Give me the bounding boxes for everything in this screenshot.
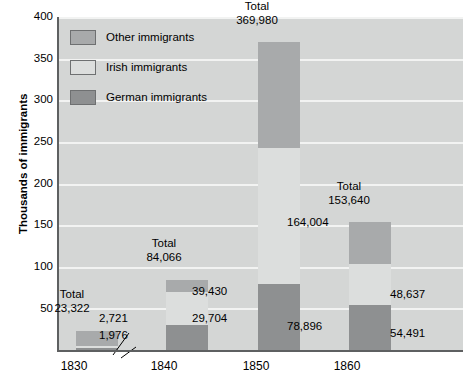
x-tick-1830: 1830 — [34, 360, 114, 372]
bar-1860-segment-irish — [349, 264, 391, 305]
bar-1850-segment-german — [258, 284, 300, 350]
x-tick-1840: 1840 — [124, 360, 204, 372]
x-tick-1860: 1860 — [307, 360, 387, 372]
total-label-1830: Total 23,322 — [40, 288, 104, 315]
segment-label-1860-german: 54,491 — [390, 327, 425, 341]
total-value-1860: 153,640 — [313, 194, 385, 208]
total-prefix-1860: Total — [313, 180, 385, 194]
bar-1860-segment-german — [349, 305, 391, 350]
total-prefix-1850: Total — [221, 0, 293, 14]
total-value-1850: 369,980 — [221, 14, 293, 28]
total-value-1840: 84,066 — [132, 251, 196, 265]
y-tick-350: 350 — [1, 53, 53, 65]
immigration-stacked-bar-chart: Other immigrants Irish immigrants German… — [0, 0, 463, 388]
legend-swatch-other-icon — [70, 30, 96, 45]
y-tick-100: 100 — [1, 261, 53, 273]
total-label-1860: Total 153,640 — [313, 180, 385, 207]
x-tick-1850: 1850 — [216, 360, 296, 372]
total-prefix-1830: Total — [40, 288, 104, 302]
legend-swatch-german-icon — [70, 90, 96, 105]
x-axis-line — [57, 350, 463, 352]
total-prefix-1840: Total — [132, 237, 196, 251]
legend-item-other: Other immigrants — [70, 26, 207, 49]
legend-item-irish: Irish immigrants — [70, 56, 207, 79]
bar-1850 — [258, 42, 300, 350]
legend: Other immigrants Irish immigrants German… — [70, 26, 207, 116]
legend-label-irish: Irish immigrants — [106, 62, 187, 74]
total-value-1830: 23,322 — [40, 302, 104, 316]
legend-label-german: German immigrants — [106, 92, 207, 104]
segment-label-1840-irish: 39,430 — [192, 285, 227, 299]
segment-label-1840-german: 29,704 — [192, 312, 227, 326]
y-tick-400: 400 — [1, 11, 53, 23]
segment-label-1860-irish: 48,637 — [390, 288, 425, 302]
y-axis-title: Thousands of immigrants — [18, 84, 30, 244]
total-label-1850: Total 369,980 — [221, 0, 293, 27]
legend-swatch-irish-icon — [70, 60, 96, 75]
segment-label-1850-irish: 164,004 — [287, 216, 329, 230]
segment-label-1830-irish: 2,721 — [99, 312, 128, 326]
bar-1850-segment-other — [258, 42, 300, 148]
total-label-1840: Total 84,066 — [132, 237, 196, 264]
segment-label-1850-german: 78,896 — [287, 320, 322, 334]
bar-1860 — [349, 222, 391, 350]
bar-1840-segment-german — [166, 325, 208, 350]
bar-1860-segment-other — [349, 222, 391, 264]
legend-item-german: German immigrants — [70, 86, 207, 109]
segment-label-1830-german: 1,976 — [99, 329, 128, 343]
y-axis: 400 350 300 250 200 150 100 50 Thousands… — [0, 0, 53, 388]
legend-label-other: Other immigrants — [106, 32, 194, 44]
